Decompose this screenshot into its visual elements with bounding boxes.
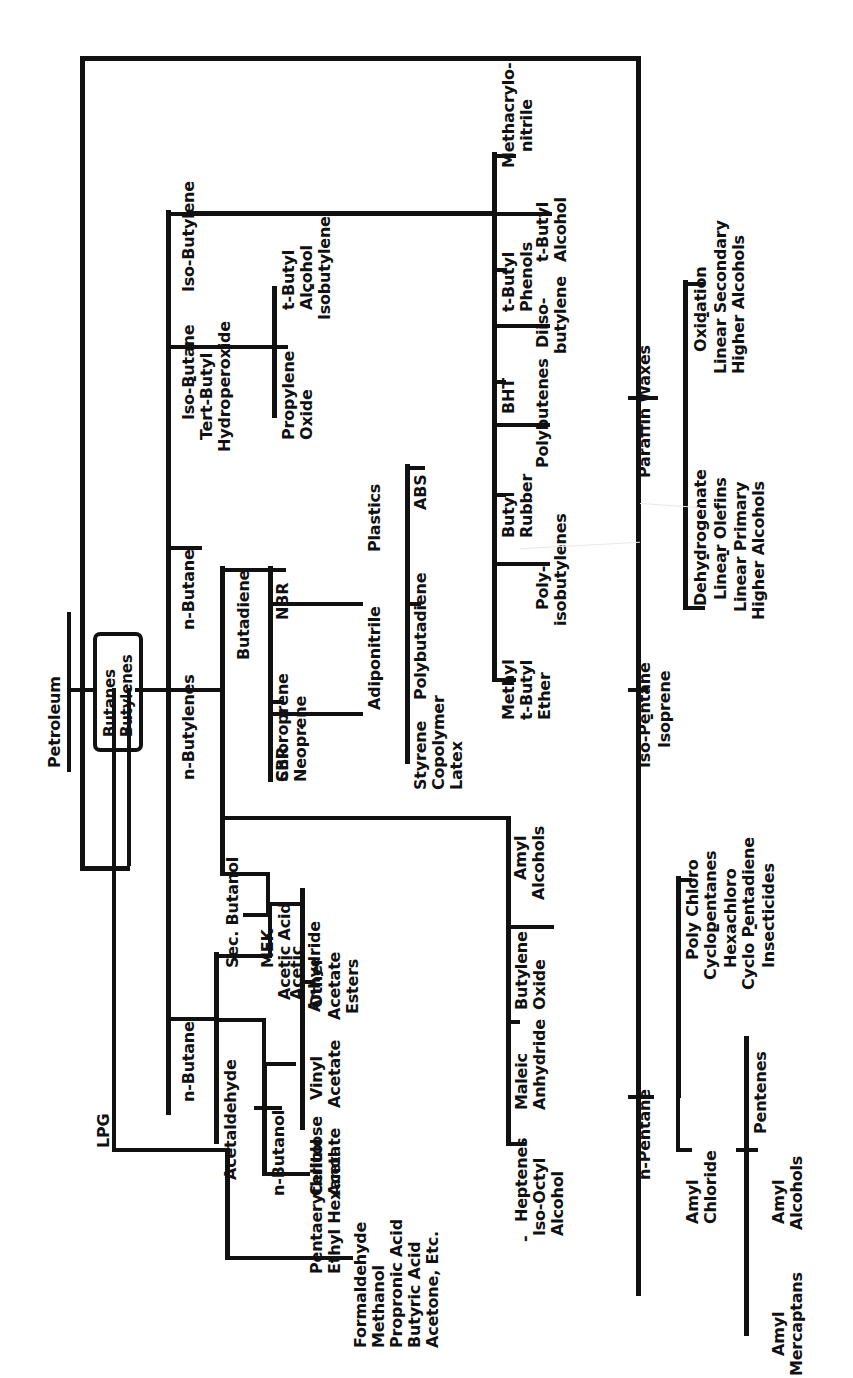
- dehydrogenate-stem: [683, 606, 705, 610]
- label-amyl-alcohols-bot: Amyl: [770, 1180, 788, 1224]
- label-bht: BHT: [500, 378, 518, 414]
- label-n-butane-top: n-Butane: [180, 549, 198, 630]
- node-out-connector: [135, 688, 170, 692]
- label-iso-butane: Iso-Butane: [180, 325, 198, 420]
- label-rubber: Rubber: [518, 474, 536, 538]
- scan-artifact-1: [520, 542, 640, 549]
- nbr-stem: [268, 568, 286, 572]
- label-anhydride: Anhydride: [306, 921, 324, 1012]
- tbhp-tick: [272, 345, 288, 349]
- label-amyl-mercaptans: Amyl: [770, 1312, 788, 1356]
- n-pentane-spine: [676, 876, 681, 1098]
- label-hydroperoxide: Hydroperoxide: [216, 321, 234, 452]
- abs-stem: [405, 466, 425, 470]
- label-n-pentane: n-Pentane: [636, 1089, 654, 1180]
- label-alcohol-1: Alcohol: [298, 245, 316, 310]
- label-linear-primary: Linear Primary: [732, 482, 750, 612]
- mek-connector: [243, 913, 271, 917]
- label-hexachloro: Hexachloro: [722, 868, 740, 968]
- label-latex: Latex: [448, 741, 466, 790]
- label-abs: ABS: [412, 474, 430, 510]
- label-amyl-chloride: Amyl: [684, 1180, 702, 1224]
- tbhp-run: [186, 345, 272, 349]
- label-linear-secondary: Linear Secondary: [712, 220, 730, 374]
- acetaldehyde-spine: [262, 1062, 267, 1172]
- label-isobutylenes: isobutylenes: [552, 513, 570, 626]
- label-acetic: Acetic: [288, 946, 306, 1000]
- label-butylene: Butylene: [513, 931, 531, 1010]
- label-copolymer: Copolymer: [430, 695, 448, 790]
- petroleum-bar: [67, 612, 71, 772]
- n-butane-bot-spine: [214, 952, 219, 1144]
- label-esters: Esters: [344, 959, 362, 1014]
- label-ether: Ether: [536, 672, 554, 720]
- label-alcohol-3: Alcohol: [549, 1171, 567, 1236]
- label-n-butylenes: n-Butylenes: [180, 674, 198, 780]
- paraffin-products-spine: [683, 280, 688, 610]
- label-neoprene: Neoprene: [292, 696, 310, 782]
- plastics-spine: [405, 464, 410, 764]
- maleic-stem: [506, 1020, 520, 1024]
- label-t-butyl: t-Butyl: [518, 660, 536, 720]
- iso-butylene-product-spine: [492, 152, 497, 682]
- label-paraffin-waxes: Paraffin Waxes: [636, 345, 654, 478]
- label-styrene: Styrene: [412, 721, 430, 790]
- label-acetate-3: Acetate: [326, 952, 344, 1020]
- diagram-canvas: Petroleum Butanes Butylenes LPG n-Butyle…: [0, 0, 853, 1378]
- acetic-acid-v: [268, 902, 272, 956]
- amyl-products-spine: [744, 1036, 749, 1336]
- tbhp-spine: [272, 286, 277, 418]
- label-oxide-1: Oxide: [298, 389, 316, 440]
- acetic-anhydride-run: [262, 1062, 296, 1066]
- label-acetate-2: Acetate: [326, 1040, 344, 1108]
- label-n-butane-bot: n-Butane: [180, 1021, 198, 1102]
- label-propylene: Propylene: [280, 351, 298, 440]
- label-heptenes: Heptenes: [513, 1138, 531, 1222]
- lpg-vertical: [127, 688, 131, 866]
- label-oxidation: Oxidation: [692, 267, 710, 352]
- label-isoprene: Isoprene: [656, 671, 674, 748]
- label-pentaerythritol: Pentaerythritol: [308, 1139, 326, 1274]
- label-higher-alcohols-1: Higher Alcohols: [750, 481, 768, 620]
- label-alcohol-2: Alcohol: [552, 197, 570, 262]
- lpg-line: [112, 688, 116, 1148]
- label-chloroprene: Chloroprene: [274, 673, 292, 782]
- label-isobutylene: Isobutylene: [316, 216, 334, 320]
- label-diiso: Diiso-: [534, 298, 552, 348]
- iso-butylene-run: [190, 211, 496, 216]
- label-t-butyl-alcohol-1: t-Butyl: [280, 250, 298, 310]
- label-polybutadiene: Polybutadiene: [412, 573, 430, 700]
- label-cyclopentanes: Cyclopentanes: [702, 851, 720, 980]
- label-adiponitrile: Adiponitrile: [366, 606, 384, 710]
- label-vinyl: Vinyl: [308, 1056, 326, 1100]
- label-sec-butanol: Sec. Butanol: [224, 857, 242, 968]
- label-butylene-diiso: butylene: [552, 276, 570, 354]
- label-maleic: Maleic: [513, 1053, 531, 1110]
- frame-left-edge: [80, 56, 85, 871]
- label-tert-butyl: Tert-Butyl: [198, 353, 216, 440]
- label-methacrylo: Methacrylo-: [500, 63, 518, 168]
- plastics-run: [268, 602, 363, 606]
- acetaldehyde-stem: [214, 1018, 266, 1022]
- label-propronic-acid: Propronic Acid: [388, 1219, 406, 1348]
- label-amyl-alcohols-top-2: Alcohols: [530, 826, 548, 900]
- acetic-acid-run: [214, 954, 272, 958]
- label-higher-alcohols-2: Higher Alcohols: [730, 235, 748, 374]
- label-acetone-etc: Acetone, Etc.: [424, 1231, 442, 1348]
- label-amyl-alcohols-top: Amyl: [512, 836, 530, 880]
- label-butyric-acid: Butyric Acid: [406, 1242, 424, 1349]
- frame-bottom-stub: [80, 866, 130, 871]
- label-formaldehyde: Formaldehyde: [352, 1222, 370, 1348]
- label-nitrile: nitrile: [518, 99, 536, 152]
- label-iso-octyl: Iso-Octyl: [531, 1158, 549, 1236]
- label-poly-chloro: Poly Chloro: [684, 860, 702, 961]
- label-insecticides: Insecticides: [760, 863, 778, 968]
- n-butylenes-to-c5-run: [220, 816, 510, 820]
- label-iso-butylene: Iso-Butylene: [180, 181, 198, 292]
- amyl-chloride-v: [676, 1095, 680, 1151]
- label-amyl-chloride-2: Chloride: [702, 1150, 720, 1224]
- butylene-oxide-stem: [506, 925, 554, 929]
- amyl-alcohols-tick: [736, 1148, 758, 1152]
- pentaerythritol-run: [262, 1172, 310, 1176]
- label-petroleum: Petroleum: [46, 676, 64, 768]
